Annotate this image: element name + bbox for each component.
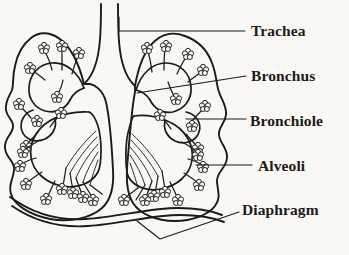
label-diaphragm: Diaphragm xyxy=(242,202,319,218)
label-bronchiole: Bronchiole xyxy=(250,113,323,129)
leader-trachea xyxy=(119,17,245,31)
lung-anatomy-figure: .ink { fill:none; stroke:#1b1b1b; stroke… xyxy=(0,0,349,255)
label-trachea: Trachea xyxy=(251,23,306,39)
label-alveoli: Alveoli xyxy=(258,158,305,174)
label-bronchus: Bronchus xyxy=(251,68,315,84)
trachea-structure xyxy=(85,4,134,85)
left-bronchial-tree xyxy=(13,40,102,205)
right-bronchial-tree xyxy=(118,40,210,205)
